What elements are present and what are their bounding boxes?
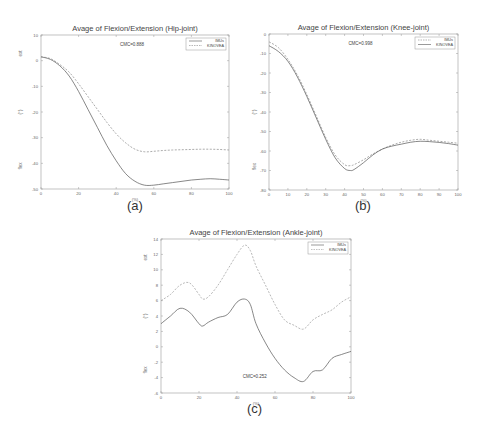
x-tick-label: 80 (311, 395, 316, 400)
legend-entry: KINOVEA (329, 248, 346, 252)
y-tick-label: 6 (156, 298, 159, 303)
subfigure-label-c: (c) (247, 401, 262, 416)
x-tick-label: 20 (197, 395, 202, 400)
ankle-chart-panel: Avage of Flexion/Extension (Ankle-joint)… (0, 0, 482, 443)
y-tick-label: 4 (156, 314, 159, 319)
legend: IMUsKINOVEA (308, 242, 348, 254)
x-tick-label: 0 (160, 395, 163, 400)
y-axis-label: flex (143, 366, 148, 374)
ankle-chart: Avage of Flexion/Extension (Ankle-joint)… (0, 0, 482, 443)
y-axis-label: ext (143, 254, 148, 261)
series-line-imus (161, 299, 351, 382)
y-tick-label: -4 (154, 375, 158, 380)
y-tick-label: -2 (154, 360, 158, 365)
x-tick-label: 40 (235, 395, 240, 400)
y-tick-label: -6 (154, 391, 158, 396)
x-tick-label: 60 (273, 395, 278, 400)
y-tick-label: 2 (156, 329, 159, 334)
y-tick-label: 0 (156, 344, 159, 349)
y-tick-label: 10 (153, 267, 158, 272)
y-tick-label: 8 (156, 283, 159, 288)
chart-title: Avage of Flexion/Extension (Ankle-joint) (190, 228, 323, 237)
x-tick-label: 100 (348, 395, 356, 400)
y-axis-label: (°) (143, 313, 148, 318)
legend-entry: IMUs (337, 243, 346, 247)
y-tick-label: 12 (153, 252, 158, 257)
series-line-kinovea (161, 245, 351, 329)
y-tick-label: 14 (153, 237, 158, 242)
cmc-annotation: CMC=0.252 (243, 374, 268, 379)
